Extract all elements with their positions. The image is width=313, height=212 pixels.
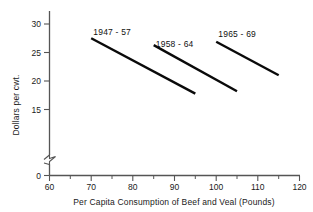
x-tick-label-120: 120: [292, 182, 306, 192]
x-tick-label-110: 110: [251, 182, 265, 192]
y-tick-label-0: 0: [36, 171, 41, 181]
y-tick-label-30: 30: [32, 19, 42, 29]
y-tick-label-15: 15: [32, 105, 42, 115]
series-label-1965-69: 1965 - 69: [218, 29, 256, 39]
x-tick-label-60: 60: [45, 182, 55, 192]
chart-page: 30 25 20 15 0 60 70 80 90 100 1: [0, 0, 313, 212]
x-tick-label-80: 80: [128, 182, 138, 192]
demand-curves-chart: 30 25 20 15 0 60 70 80 90 100 1: [0, 0, 313, 212]
y-axis-break-icon: [44, 155, 56, 165]
series-line-1958-64: [154, 45, 237, 91]
x-tick-label-100: 100: [209, 182, 223, 192]
y-axis-title: Dollars per cwt.: [11, 75, 21, 136]
x-tick-label-70: 70: [86, 182, 96, 192]
series-label-1958-64: 1958 - 64: [156, 39, 194, 49]
x-axis-major-ticks: [50, 176, 300, 182]
x-tick-label-90: 90: [170, 182, 180, 192]
y-axis-ticks: [44, 24, 50, 176]
series-label-1947-57: 1947 - 57: [93, 27, 131, 37]
series-line-1965-69: [216, 42, 279, 76]
x-axis-title: Per Capita Consumption of Beef and Veal …: [73, 197, 274, 207]
y-tick-label-20: 20: [32, 76, 42, 86]
y-tick-label-25: 25: [32, 48, 42, 58]
